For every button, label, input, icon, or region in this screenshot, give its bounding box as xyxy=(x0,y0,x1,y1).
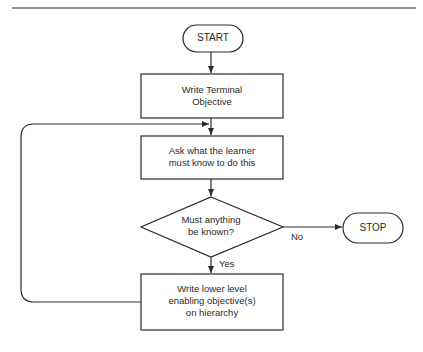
stop-label: STOP xyxy=(343,222,403,234)
enabling-line-2: enabling objective(s) xyxy=(141,295,283,307)
no-edge-label: No xyxy=(291,231,303,242)
terminal-objective-box: Write Terminal Objective xyxy=(141,84,283,108)
enabling-line-3: on hierarchy xyxy=(141,307,283,319)
terminal-objective-line-1: Write Terminal xyxy=(141,84,283,96)
decision-line-1: Must anything xyxy=(161,214,261,226)
yes-edge-label: Yes xyxy=(219,258,235,269)
ask-learner-line-1: Ask what the learner xyxy=(141,145,283,157)
ask-learner-line-2: must know to do this xyxy=(141,157,283,169)
enabling-objectives-box: Write lower level enabling objective(s) … xyxy=(141,283,283,319)
decision-line-2: be known? xyxy=(161,226,261,238)
decision-diamond: Must anything be known? xyxy=(161,214,261,238)
terminal-objective-line-2: Objective xyxy=(141,96,283,108)
ask-learner-box: Ask what the learner must know to do thi… xyxy=(141,145,283,169)
start-label: START xyxy=(183,32,243,44)
enabling-line-1: Write lower level xyxy=(141,283,283,295)
